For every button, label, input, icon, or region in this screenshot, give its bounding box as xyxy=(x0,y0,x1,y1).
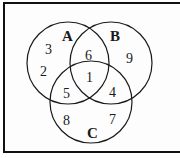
set-label-b: B xyxy=(110,28,120,44)
region-c-only-1: 8 xyxy=(63,113,70,128)
region-a-and-c: 5 xyxy=(63,86,70,101)
region-a-only-1: 3 xyxy=(45,42,52,57)
region-a-and-b: 6 xyxy=(85,48,92,63)
venn-diagram: A B C 3 2 9 8 7 6 5 4 1 xyxy=(0,0,180,158)
region-c-only-2: 7 xyxy=(109,112,116,127)
set-label-c: C xyxy=(87,125,98,141)
region-b-and-c: 4 xyxy=(109,85,116,100)
region-a-b-c: 1 xyxy=(86,70,93,85)
region-a-only-2: 2 xyxy=(40,64,47,79)
region-b-only: 9 xyxy=(126,51,133,66)
set-label-a: A xyxy=(62,28,73,44)
